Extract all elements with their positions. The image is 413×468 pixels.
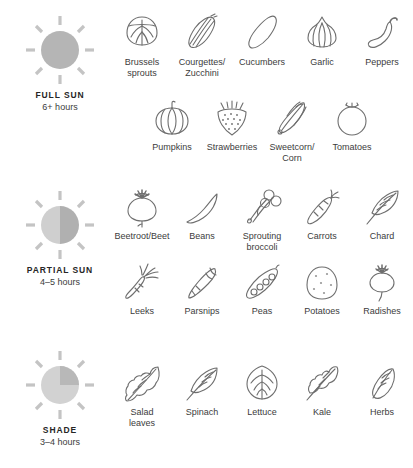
veg-cell-lettuce[interactable]: Lettuce xyxy=(232,362,292,418)
shade-sun-icon xyxy=(24,349,96,421)
veg-label: Cucumbers xyxy=(239,57,285,68)
sun-title: SHADE xyxy=(8,424,112,436)
veg-label: Lettuce xyxy=(247,407,277,418)
sunlight-vegetable-chart: FULL SUN 6+ hours Brussels sprouts xyxy=(0,0,413,468)
veg-label: Carrots xyxy=(307,231,337,242)
veg-cell-radishes[interactable]: Radishes xyxy=(352,261,412,317)
potato-icon xyxy=(300,261,344,305)
sun-hours: 4–5 hours xyxy=(8,276,112,289)
veg-label: Radishes xyxy=(363,306,401,317)
lettuce-icon xyxy=(240,362,284,406)
herbs-icon xyxy=(360,362,404,406)
veg-cell-herbs[interactable]: Herbs xyxy=(352,362,412,418)
veg-cell-sweetcorn[interactable]: Sweetcorn/ Corn xyxy=(262,97,322,164)
strawberry-icon xyxy=(210,97,254,141)
veg-cell-kale[interactable]: Kale xyxy=(292,362,352,418)
veg-label: Peppers xyxy=(365,57,399,68)
veg-label: Brussels sprouts xyxy=(125,57,160,79)
veg-cell-potatoes[interactable]: Potatoes xyxy=(292,261,352,317)
veg-label: Beans xyxy=(189,231,215,242)
sun-hours: 3–4 hours xyxy=(8,436,112,449)
veg-cell-strawberries[interactable]: Strawberries xyxy=(202,97,262,153)
veg-cell-salad-leaves[interactable]: Salad leaves xyxy=(112,362,172,429)
veg-label: Parsnips xyxy=(184,306,219,317)
veg-row-partial-sun-2: Leeks Parsnips Peas xyxy=(112,261,412,317)
veg-row-full-sun-1: Brussels sprouts Courgettes/ Zucchini Cu… xyxy=(112,12,412,79)
veg-cell-peppers[interactable]: Peppers xyxy=(352,12,412,68)
veg-cell-cucumbers[interactable]: Cucumbers xyxy=(232,12,292,68)
veg-row-partial-sun-1: Beetroot/Beet Beans Sprouting broccoli xyxy=(112,186,412,253)
salad-leaves-icon xyxy=(120,362,164,406)
sun-group-shade: SHADE 3–4 hours xyxy=(8,349,112,449)
veg-label: Courgettes/ Zucchini xyxy=(179,57,226,79)
chard-icon xyxy=(360,186,404,230)
veg-label: Pumpkins xyxy=(152,142,192,153)
beetroot-icon xyxy=(120,186,164,230)
veg-label: Potatoes xyxy=(304,306,340,317)
full-sun-icon xyxy=(24,14,96,86)
veg-label: Kale xyxy=(313,407,331,418)
veg-cell-tomatoes[interactable]: Tomatoes xyxy=(322,97,382,153)
sun-group-full-sun: FULL SUN 6+ hours xyxy=(8,14,112,114)
partial-sun-icon xyxy=(24,189,96,261)
sun-group-partial-sun: PARTIAL SUN 4–5 hours xyxy=(8,189,112,289)
veg-row-full-sun-2: Pumpkins Strawberries xyxy=(142,97,382,164)
veg-label: Tomatoes xyxy=(332,142,371,153)
veg-row-shade-1: Salad leaves Spinach Lettuce xyxy=(112,362,412,429)
veg-cell-pumpkins[interactable]: Pumpkins xyxy=(142,97,202,153)
veg-label: Herbs xyxy=(370,407,394,418)
veg-cell-leeks[interactable]: Leeks xyxy=(112,261,172,317)
veg-label: Salad leaves xyxy=(129,407,155,429)
veg-label: Sprouting broccoli xyxy=(243,231,282,253)
veg-label: Spinach xyxy=(186,407,219,418)
veg-cell-peas[interactable]: Peas xyxy=(232,261,292,317)
pepper-icon xyxy=(360,12,404,56)
veg-cell-brussels-sprouts[interactable]: Brussels sprouts xyxy=(112,12,172,79)
courgette-zucchini-icon xyxy=(180,12,224,56)
leek-icon xyxy=(120,261,164,305)
sun-title: FULL SUN xyxy=(8,89,112,101)
radish-icon xyxy=(360,261,404,305)
veg-cell-spinach[interactable]: Spinach xyxy=(172,362,232,418)
veg-cell-beetroot[interactable]: Beetroot/Beet xyxy=(112,186,172,242)
sprouting-broccoli-icon xyxy=(240,186,284,230)
veg-cell-sprouting-broccoli[interactable]: Sprouting broccoli xyxy=(232,186,292,253)
spinach-icon xyxy=(180,362,224,406)
peas-icon xyxy=(240,261,284,305)
kale-icon xyxy=(300,362,344,406)
pumpkin-icon xyxy=(150,97,194,141)
sun-hours: 6+ hours xyxy=(8,101,112,114)
tomato-icon xyxy=(330,97,374,141)
veg-label: Peas xyxy=(252,306,273,317)
veg-label: Garlic xyxy=(310,57,334,68)
parsnip-icon xyxy=(180,261,224,305)
veg-cell-garlic[interactable]: Garlic xyxy=(292,12,352,68)
carrot-icon xyxy=(300,186,344,230)
veg-cell-beans[interactable]: Beans xyxy=(172,186,232,242)
veg-cell-carrots[interactable]: Carrots xyxy=(292,186,352,242)
veg-cell-courgettes-zucchini[interactable]: Courgettes/ Zucchini xyxy=(172,12,232,79)
veg-label: Sweetcorn/ Corn xyxy=(269,142,314,164)
veg-label: Leeks xyxy=(130,306,154,317)
cucumber-icon xyxy=(240,12,284,56)
brussels-sprouts-icon xyxy=(120,12,164,56)
veg-label: Strawberries xyxy=(207,142,258,153)
veg-cell-parsnips[interactable]: Parsnips xyxy=(172,261,232,317)
sun-title: PARTIAL SUN xyxy=(8,264,112,276)
garlic-icon xyxy=(300,12,344,56)
veg-label: Chard xyxy=(370,231,395,242)
sweetcorn-icon xyxy=(270,97,314,141)
veg-label: Beetroot/Beet xyxy=(114,231,169,242)
veg-cell-chard[interactable]: Chard xyxy=(352,186,412,242)
beans-icon xyxy=(180,186,224,230)
